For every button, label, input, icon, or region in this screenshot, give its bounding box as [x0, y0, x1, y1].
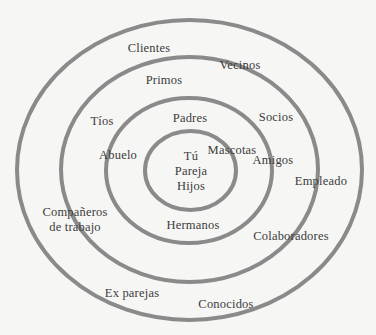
label-vecinos: Vecinos	[220, 58, 261, 72]
label-padres: Padres	[173, 111, 208, 125]
label-companeros-line1: Compañeros	[42, 205, 107, 219]
label-abuelo: Abuelo	[99, 148, 137, 162]
label-pareja: Pareja	[175, 164, 207, 178]
label-socios: Socios	[259, 110, 294, 124]
label-conocidos: Conocidos	[198, 297, 253, 311]
label-ex-parejas: Ex parejas	[105, 286, 159, 300]
label-tu: Tú	[184, 149, 198, 163]
label-amigos: Amigos	[253, 153, 294, 167]
label-hermanos: Hermanos	[167, 218, 220, 232]
label-hijos: Hijos	[177, 179, 205, 193]
label-mascotas: Mascotas	[208, 143, 257, 157]
label-clientes: Clientes	[128, 41, 171, 55]
label-colaboradores: Colaboradores	[253, 229, 329, 243]
label-primos: Primos	[146, 73, 183, 87]
label-companeros-line2: de trabajo	[49, 220, 101, 234]
label-tios: Tíos	[90, 114, 113, 128]
label-empleado: Empleado	[295, 174, 347, 188]
